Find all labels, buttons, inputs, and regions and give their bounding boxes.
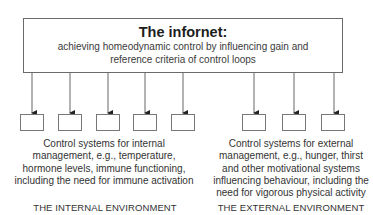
internal-control-box-5	[171, 114, 195, 131]
internal-description-line: including the need for immune activation	[8, 175, 200, 187]
external-control-box-1	[242, 114, 266, 131]
internal-control-box-4	[133, 114, 157, 131]
internal-control-box-2	[58, 114, 82, 131]
external-description-line: and other motivational systems	[200, 163, 373, 175]
internal-environment-label: THE INTERNAL ENVIRONMENT	[10, 202, 200, 213]
internal-description-line: Control systems for internal	[8, 138, 200, 150]
external-environment-label: THE EXTERNAL ENVIRONMENT	[200, 202, 373, 213]
internal-description-line: hormone levels, immune functioning,	[8, 163, 200, 175]
external-description-line: management, e.g., hunger, thirst	[200, 150, 373, 162]
external-description-line: influencing behaviour, including the	[200, 175, 373, 187]
external-description-line: Control systems for external	[200, 138, 373, 150]
internal-description-line: management, e.g., temperature,	[8, 150, 200, 162]
internal-control-box-3	[96, 114, 120, 131]
external-control-box-3	[321, 114, 345, 131]
external-control-box-2	[282, 114, 306, 131]
internal-description: Control systems for internal management,…	[8, 138, 200, 187]
internal-control-box-1	[20, 114, 44, 131]
external-description: Control systems for external management,…	[200, 138, 373, 199]
external-description-line: need for vigorous physical activity	[200, 187, 373, 199]
